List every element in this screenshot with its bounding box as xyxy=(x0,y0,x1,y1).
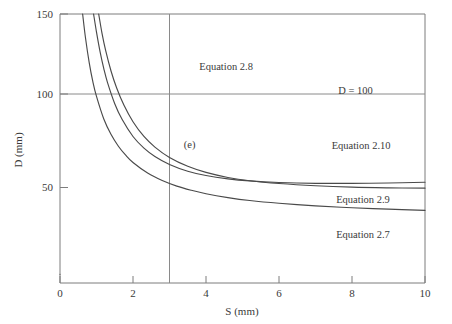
x-axis-ticks xyxy=(60,276,425,283)
annotation-d-100: D = 100 xyxy=(338,85,373,96)
x-tick-0: 0 xyxy=(57,287,63,299)
x-tick-10: 10 xyxy=(420,287,432,299)
x-tick-4: 4 xyxy=(203,287,209,299)
curve-equation-2-9 xyxy=(99,14,425,188)
x-tick-6: 6 xyxy=(276,287,282,299)
x-axis-tick-labels: 0 2 4 6 8 10 xyxy=(57,287,431,299)
annotation-equation-2-9: Equation 2.9 xyxy=(336,194,390,205)
annotation-equation-2-8: Equation 2.8 xyxy=(199,61,253,72)
annotation-equation-2-10: Equation 2.10 xyxy=(332,140,391,151)
chart-figure: 150 100 50 0 2 4 6 8 10 S (mm) D (mm) Eq… xyxy=(0,0,452,324)
y-axis-title: D (mm) xyxy=(12,132,25,167)
curve-equation-2-10 xyxy=(94,14,425,183)
x-tick-2: 2 xyxy=(130,287,136,299)
y-tick-50: 50 xyxy=(42,181,54,193)
y-tick-100: 100 xyxy=(37,88,54,100)
x-tick-8: 8 xyxy=(349,287,355,299)
y-axis-ticks xyxy=(60,14,68,188)
annotation-equation-2-7: Equation 2.7 xyxy=(336,229,390,240)
chart-annotations: Equation 2.8D = 100(e)Equation 2.10Equat… xyxy=(184,61,391,240)
x-axis-title: S (mm) xyxy=(225,305,259,318)
annotation-e: (e) xyxy=(184,139,196,151)
y-tick-150: 150 xyxy=(37,8,54,20)
y-axis-tick-labels: 150 100 50 xyxy=(37,8,54,193)
